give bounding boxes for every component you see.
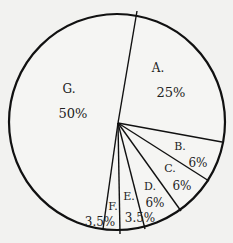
slice-b-value: 6% [188, 156, 207, 170]
pie-outline [9, 14, 225, 230]
slice-d-value: 6% [145, 196, 164, 210]
slice-b-label: B. [174, 140, 186, 153]
pie-chart: A. 25% B. 6% C. 6% D. 6% E. 3.5% F. 3.5%… [0, 0, 233, 243]
slice-g-value: 50% [59, 106, 88, 121]
slice-e-label: E. [123, 190, 135, 203]
slice-e-value: 3.5% [125, 211, 156, 225]
slice-f-label: F. [108, 200, 117, 213]
slice-d-label: D. [144, 180, 156, 193]
slice-c-value: 6% [172, 179, 191, 193]
slice-a-value: 25% [157, 85, 186, 100]
slice-c-label: C. [164, 162, 176, 175]
slice-f-value: 3.5% [85, 215, 116, 229]
slice-g-label: G. [63, 82, 76, 96]
slice-a-label: A. [151, 61, 164, 75]
